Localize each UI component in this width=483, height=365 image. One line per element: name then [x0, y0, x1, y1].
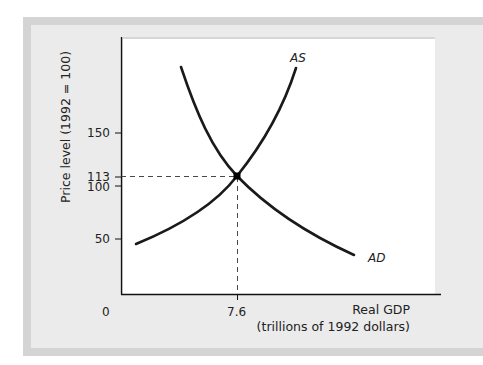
equilibrium-point [234, 173, 241, 180]
ad-curve [181, 67, 354, 255]
origin-label: 0 [102, 306, 110, 318]
x-axis-label: Real GDP (trillions of 1992 dollars) [257, 301, 410, 335]
y-tick-label-100: 100 [70, 181, 110, 193]
as-curve-label: AS [290, 51, 306, 65]
as-curve [136, 68, 296, 244]
x-axis-label-line1: Real GDP [257, 301, 410, 318]
x-axis-label-line2: (trillions of 1992 dollars) [257, 318, 410, 335]
y-tick-label-50: 50 [70, 233, 110, 245]
x-tick-label-7-6: 7.6 [227, 306, 246, 318]
ad-curve-label: AD [368, 251, 385, 265]
y-tick-label-150: 150 [70, 127, 110, 139]
